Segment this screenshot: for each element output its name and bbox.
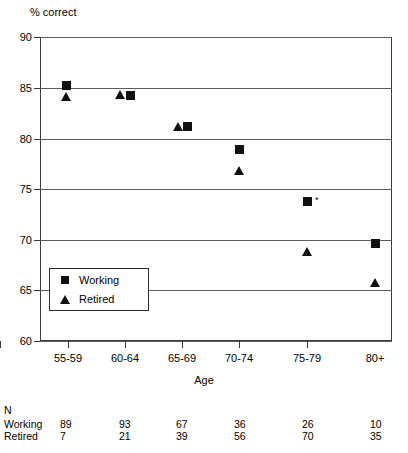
legend-item-retired: Retired (50, 290, 148, 310)
data-point-retired-55-59 (61, 92, 71, 101)
gridline-85 (40, 88, 392, 89)
x-axis-title: Age (0, 374, 408, 386)
ntable-retired-70-74: 56 (234, 431, 264, 442)
data-point-retired-65-69 (173, 122, 183, 131)
gridline-80 (40, 139, 392, 140)
gridline-70 (40, 240, 392, 241)
y-tick-label-90: 90 (8, 32, 32, 43)
y-tick-label-70: 70 (8, 235, 32, 246)
gridline-60 (40, 341, 392, 342)
ntable-row-label-working: Working (4, 419, 42, 430)
ntable-working-70-74: 36 (234, 419, 264, 430)
data-point-retired-75-79 (302, 247, 312, 256)
y-tick-label-85: 85 (8, 83, 32, 94)
y-axis-title: % correct (30, 6, 76, 18)
x-tick-60-64 (125, 341, 126, 348)
triangle-marker-icon (60, 295, 70, 304)
ntable-retired-60-64: 21 (119, 431, 149, 442)
x-tick-label-70-74: 70-74 (209, 352, 269, 364)
gridline-90 (40, 37, 392, 38)
y-tick-85 (34, 88, 40, 89)
data-point-working-75-79 (303, 197, 312, 206)
y-tick-80 (34, 139, 40, 140)
y-tick-60 (34, 341, 40, 342)
ntable-working-55-59: 89 (60, 419, 90, 430)
y-tick-label-80: 80 (8, 134, 32, 145)
data-point-working-55-59 (62, 81, 71, 90)
ntable-working-60-64: 93 (119, 419, 149, 430)
legend-label-retired: Retired (79, 293, 114, 306)
x-tick-label-65-69: 65-69 (152, 352, 212, 364)
y-tick-90 (34, 37, 40, 38)
x-tick-70-74 (239, 341, 240, 348)
data-point-working-60-64 (126, 91, 135, 100)
asterisk-annotation: * (315, 196, 319, 205)
ntable-retired-80plus: 35 (370, 431, 400, 442)
data-point-retired-80plus (370, 278, 380, 287)
x-tick-label-75-79: 75-79 (277, 352, 337, 364)
y-tick-70 (34, 240, 40, 241)
data-point-working-65-69 (183, 122, 192, 131)
ntable-retired-75-79: 70 (302, 431, 332, 442)
ntable-working-65-69: 67 (176, 419, 206, 430)
ntable-row-label-retired: Retired (4, 431, 38, 442)
x-tick-label-60-64: 60-64 (95, 352, 155, 364)
gridline-75 (40, 189, 392, 190)
y-tick-label-65: 65 (8, 285, 32, 296)
ntable-retired-55-59: 7 (60, 431, 90, 442)
y-tick-label-75: 75 (8, 184, 32, 195)
legend-label-working: Working (79, 274, 119, 287)
data-point-retired-60-64 (115, 90, 125, 99)
x-tick-80plus (0, 341, 1, 348)
x-tick-65-69 (182, 341, 183, 348)
x-tick-label-80plus: 80+ (345, 352, 405, 364)
x-tick-label-55-59: 55-59 (38, 352, 98, 364)
square-marker-icon (61, 276, 69, 284)
ntable-title: N (4, 405, 12, 416)
data-point-retired-70-74 (234, 166, 244, 175)
x-tick-55-59 (68, 341, 69, 348)
data-point-working-80plus (371, 239, 380, 248)
y-tick-65 (34, 290, 40, 291)
chart-legend: Working Retired (49, 268, 149, 311)
ntable-working-80plus: 10 (370, 419, 400, 430)
y-tick-75 (34, 189, 40, 190)
x-tick-75-79 (307, 341, 308, 348)
chart-figure: % correct 90 85 80 75 70 65 60 55-59 60-… (0, 0, 408, 453)
ntable-working-75-79: 26 (302, 419, 332, 430)
ntable-retired-65-69: 39 (176, 431, 206, 442)
legend-item-working: Working (50, 271, 148, 291)
data-point-working-70-74 (235, 145, 244, 154)
y-tick-label-60: 60 (8, 336, 32, 347)
